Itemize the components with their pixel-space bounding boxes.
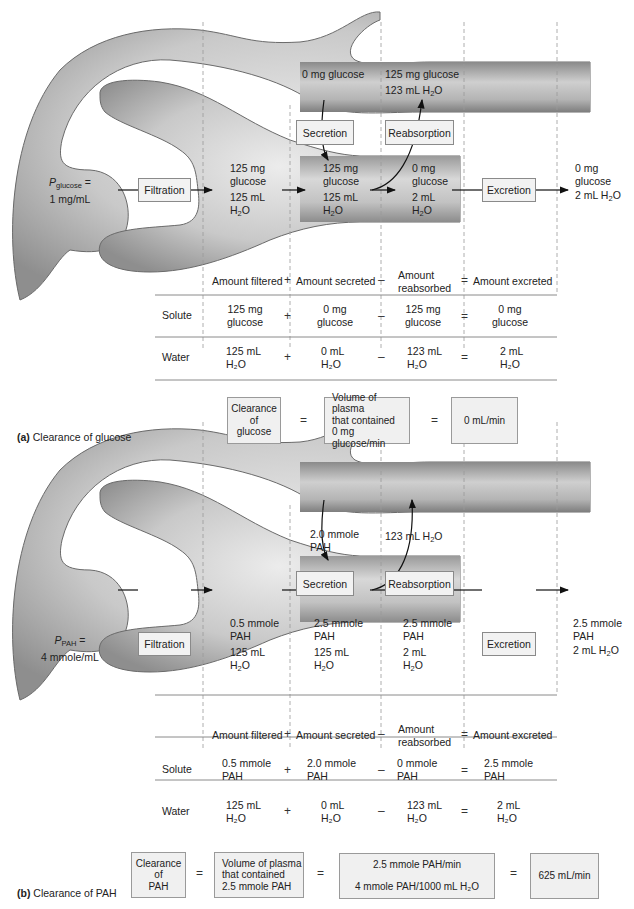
formula-clearance-box: Clearanceofglucose (227, 397, 281, 444)
formula-equals: = (300, 413, 307, 427)
cell: 0 mgglucose (305, 303, 365, 328)
formula-equals: = (196, 866, 203, 880)
cell: 123 mLH₂O (407, 345, 442, 370)
reabsorption-label: Reabsorption (385, 571, 454, 596)
filtration-label: Filtration (138, 632, 191, 656)
cell: 125 mLH₂O (226, 799, 261, 824)
excreted-amount: 0 mgglucose 2 mL H2O (575, 162, 621, 206)
op-equals: = (461, 273, 468, 287)
cell: 0.5 mmolePAH (222, 757, 271, 782)
cell: 0 mLH₂O (321, 799, 344, 824)
formula-volume-box: Volume of plasmathat contained2.5 mmole … (214, 852, 304, 898)
cell: 2 mLH₂O (497, 799, 520, 824)
formula-clearance-box: ClearanceofPAH (131, 852, 186, 898)
cell: 2.5 mmolePAH (484, 757, 533, 782)
op-plus: + (284, 273, 291, 287)
header-reabsorbed: Amountreabsorbed (398, 723, 451, 748)
peritubular-reabsorbed-water: 123 mL H2O (385, 530, 442, 547)
plasma-concentration-label: Pglucose = 1 mg/mL (35, 176, 105, 205)
row-label-water: Water (162, 351, 190, 364)
formula-equals: = (317, 866, 324, 880)
formula-denominator: 4 mmole PAH/1000 mL H₂O (355, 881, 479, 893)
cell: 0 mLH₂O (321, 345, 344, 370)
header-filtered: Amount filtered (212, 729, 283, 742)
filtration-label: Filtration (138, 178, 191, 202)
after-secretion-amount: 2.5 mmolePAH 125 mLH2O (314, 617, 363, 675)
peritubular-reabsorbed-solute: 125 mg glucose (385, 68, 459, 81)
after-secretion-amount: 125 mgglucose 125 mLH2O (323, 162, 359, 220)
cell: 2.0 mmolePAH (307, 757, 356, 782)
formula-equals: = (431, 413, 438, 427)
cell: 125 mLH₂O (226, 345, 261, 370)
cell: 0 mmolePAH (397, 757, 437, 782)
peritubular-secretion-source: 0 mg glucose (302, 68, 364, 81)
row-label-solute: Solute (162, 763, 192, 776)
formula-result-box: 0 mL/min (451, 397, 518, 444)
excretion-label: Excretion (482, 632, 536, 656)
peritubular-secretion-source: 2.0 mmolePAH (310, 528, 359, 553)
after-reabsorption-amount: 2.5 mmolePAH 2 mLH2O (403, 617, 452, 675)
cell: 0 mgglucose (480, 303, 540, 328)
after-reabsorption-amount: 0 mgglucose 2 mLH2O (412, 162, 448, 220)
formula-numerator: 2.5 mmole PAH/min (373, 859, 461, 871)
secretion-label: Secretion (296, 571, 354, 596)
formula-ratio-box: 2.5 mmole PAH/min 4 mmole PAH/1000 mL H₂… (339, 853, 495, 899)
formula-volume-box: Volume of plasmathat contained0 mg gluco… (324, 397, 410, 444)
panel-b-caption: (b) Clearance of PAH (17, 887, 117, 899)
cell: 125 mgglucose (393, 303, 453, 328)
plasma-concentration-label: PPAH = 4 mmole/mL (30, 634, 110, 663)
row-label-water: Water (162, 805, 190, 818)
header-filtered: Amount filtered (212, 275, 283, 288)
op-minus: – (378, 273, 385, 287)
formula-result-box: 625 mL/min (530, 853, 599, 899)
row-label-solute: Solute (162, 309, 192, 322)
header-excreted: Amount excreted (473, 275, 552, 288)
reabsorption-label: Reabsorption (385, 120, 454, 145)
cell: 2 mLH₂O (500, 345, 523, 370)
filtered-amount: 125 mgglucose 125 mLH2O (230, 162, 266, 220)
excreted-amount: 2.5 mmolePAH 2 mL H2O (573, 617, 622, 661)
header-excreted: Amount excreted (473, 729, 552, 742)
cell: 125 mgglucose (215, 303, 275, 328)
header-secreted: Amount secreted (296, 275, 375, 288)
peritubular-reabsorbed-water: 123 mL H2O (385, 84, 442, 101)
header-reabsorbed: Amountreabsorbed (398, 269, 451, 294)
panel-a-caption: (a) Clearance of glucose (17, 431, 131, 443)
secretion-label: Secretion (296, 120, 354, 145)
header-secreted: Amount secreted (296, 729, 375, 742)
cell: 123 mLH₂O (407, 799, 442, 824)
formula-equals: = (510, 866, 517, 880)
filtered-amount: 0.5 mmolePAH 125 mLH2O (230, 617, 279, 675)
excretion-label: Excretion (482, 178, 536, 202)
